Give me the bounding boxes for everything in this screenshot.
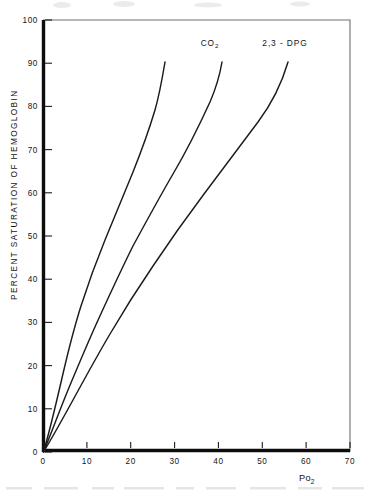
oxygen-dissociation-figure: 100 90 80 70 60 50 40 30 20 10 0 0 10 bbox=[0, 0, 371, 491]
y-tick-20: 20 bbox=[28, 362, 38, 371]
y-tick-70: 70 bbox=[28, 146, 38, 155]
curve-left bbox=[44, 62, 166, 452]
x-tick-10: 10 bbox=[82, 457, 92, 466]
y-tick-90: 90 bbox=[28, 59, 38, 68]
y-tick-30: 30 bbox=[28, 318, 38, 327]
x-tick-0: 0 bbox=[40, 457, 45, 466]
y-tick-100: 100 bbox=[23, 16, 38, 25]
y-tick-80: 80 bbox=[28, 102, 38, 111]
x-tick-70: 70 bbox=[345, 457, 355, 466]
y-tick-10: 10 bbox=[28, 405, 38, 414]
x-axis-ticks bbox=[43, 442, 350, 448]
y-axis-tick-labels: 100 90 80 70 60 50 40 30 20 10 0 bbox=[23, 16, 38, 457]
y-axis-ticks bbox=[45, 20, 52, 452]
y-axis-title: PERCENT SATURATION OF HEMOGLOBIN bbox=[10, 89, 19, 300]
curve-dpg bbox=[44, 62, 289, 452]
x-axis-title-text: Po bbox=[299, 473, 311, 483]
x-axis-tick-labels: 0 10 20 30 40 50 60 70 bbox=[40, 457, 355, 466]
annotation-dpg: 2,3 - DPG bbox=[262, 38, 307, 48]
annotation-co2-subscript: 2 bbox=[215, 42, 219, 49]
x-axis-title: Po2 bbox=[299, 473, 315, 485]
plot-frame bbox=[43, 20, 350, 452]
x-tick-50: 50 bbox=[257, 457, 267, 466]
y-tick-50: 50 bbox=[28, 232, 38, 241]
curve-co2 bbox=[44, 62, 223, 452]
x-axis-title-subscript: 2 bbox=[311, 478, 315, 485]
annotation-co2: CO2 bbox=[201, 38, 220, 49]
annotation-co2-text: CO bbox=[201, 38, 215, 48]
x-tick-60: 60 bbox=[301, 457, 311, 466]
x-tick-20: 20 bbox=[126, 457, 136, 466]
scan-artifact-bottom bbox=[6, 487, 364, 489]
y-tick-60: 60 bbox=[28, 189, 38, 198]
x-tick-40: 40 bbox=[213, 457, 223, 466]
chart-canvas: 100 90 80 70 60 50 40 30 20 10 0 0 10 bbox=[0, 0, 371, 491]
y-tick-40: 40 bbox=[28, 275, 38, 284]
scan-artifact-top bbox=[53, 1, 310, 8]
y-tick-0: 0 bbox=[33, 448, 38, 457]
x-tick-30: 30 bbox=[169, 457, 179, 466]
